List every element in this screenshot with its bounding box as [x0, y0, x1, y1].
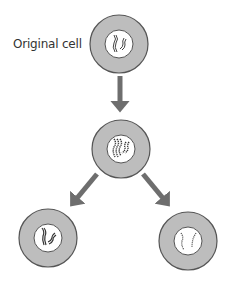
replicated-cell — [92, 120, 150, 178]
daughter-cell-right — [159, 212, 217, 270]
nucleus — [34, 224, 62, 252]
nucleus — [105, 30, 133, 58]
original-cell — [90, 15, 148, 73]
arrow-replicated-to-left-daughter — [73, 174, 97, 203]
cell-division-diagram — [0, 0, 234, 285]
daughter-cell-left — [19, 209, 77, 267]
nucleus — [107, 135, 135, 163]
nucleus — [174, 227, 202, 255]
arrow-replicated-to-right-daughter — [143, 174, 167, 203]
